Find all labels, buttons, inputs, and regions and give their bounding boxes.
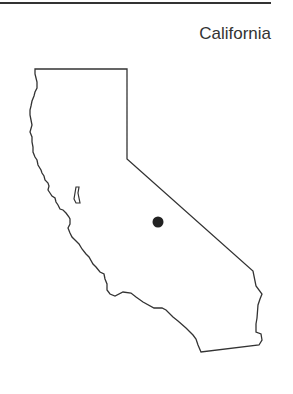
bay-outline [74,187,80,203]
california-map [0,0,293,394]
location-marker [153,217,164,228]
state-outline [30,69,262,352]
